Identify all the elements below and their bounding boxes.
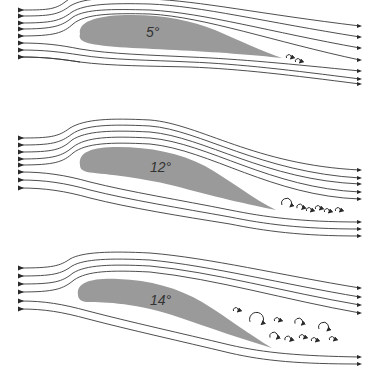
vortex-eddy-icon bbox=[286, 55, 291, 59]
inlet-arrow-icon bbox=[18, 8, 24, 13]
inlet-arrow-icon bbox=[18, 21, 24, 26]
airfoil-panel-14: 14° bbox=[18, 252, 362, 366]
vortex-eddy-icon bbox=[329, 337, 334, 341]
inlet-arrow-icon bbox=[18, 48, 24, 53]
airfoil-shape bbox=[78, 279, 272, 348]
outlet-arrow-icon bbox=[357, 220, 362, 224]
airfoil-shape bbox=[80, 147, 276, 210]
inlet-arrow-icon bbox=[18, 282, 24, 287]
angle-of-attack-label: 14° bbox=[150, 292, 172, 308]
inlet-arrow-icon bbox=[18, 266, 24, 271]
streamline bbox=[20, 50, 360, 79]
outlet-arrow-icon bbox=[357, 190, 362, 194]
inlet-arrow-icon bbox=[18, 150, 24, 155]
vortex-eddy-icon bbox=[299, 335, 304, 339]
outlet-arrow-icon bbox=[357, 77, 362, 81]
inlet-arrow-icon bbox=[18, 27, 24, 32]
panels: 5°12°14° bbox=[18, 0, 362, 366]
airfoil-panel-12: 12° bbox=[18, 119, 362, 238]
outlet-arrow-icon bbox=[357, 182, 362, 186]
vortex-eddy-icon bbox=[319, 322, 329, 331]
airfoil-shape bbox=[80, 15, 282, 58]
outlet-arrow-icon bbox=[357, 311, 362, 315]
outlet-arrow-icon bbox=[357, 234, 362, 238]
outlet-arrow-icon bbox=[357, 35, 362, 39]
outlet-arrow-icon bbox=[357, 227, 362, 231]
inlet-arrow-icon bbox=[18, 34, 24, 39]
streamline bbox=[20, 57, 80, 62]
inlet-arrow-icon bbox=[18, 136, 24, 141]
vortex-eddy-icon bbox=[295, 318, 303, 325]
angle-of-attack-label: 5° bbox=[146, 24, 160, 40]
vortex-eddy-icon bbox=[297, 204, 303, 209]
inlet-arrow-icon bbox=[18, 14, 24, 19]
outlet-arrow-icon bbox=[357, 303, 362, 307]
outlet-arrow-icon bbox=[357, 176, 362, 180]
vortex-eddy-icon bbox=[285, 336, 291, 341]
outlet-arrow-icon bbox=[357, 82, 362, 86]
inlet-arrow-icon bbox=[18, 290, 24, 295]
inlet-arrow-icon bbox=[18, 157, 24, 162]
vortex-eddy-icon bbox=[270, 332, 278, 339]
outlet-arrow-icon bbox=[357, 46, 362, 50]
vortex-eddy-icon bbox=[295, 59, 300, 63]
outlet-arrow-icon bbox=[357, 362, 362, 366]
vortex-eddy-icon bbox=[315, 206, 320, 210]
inlet-arrow-icon bbox=[18, 143, 24, 148]
inlet-arrow-icon bbox=[18, 170, 24, 175]
outlet-arrow-icon bbox=[357, 286, 362, 290]
vortex-eddy-icon bbox=[311, 338, 316, 342]
angle-of-attack-label: 12° bbox=[150, 159, 172, 175]
airfoil-streamline-diagram: 5°12°14° bbox=[0, 0, 385, 381]
outlet-arrow-icon bbox=[357, 295, 362, 299]
outlet-arrow-icon bbox=[357, 24, 362, 28]
outlet-arrow-icon bbox=[357, 69, 362, 73]
vortex-eddy-icon bbox=[250, 312, 264, 324]
airfoil-panel-5: 5° bbox=[18, 0, 362, 86]
vortex-eddy-icon bbox=[274, 318, 279, 322]
outlet-arrow-icon bbox=[357, 197, 362, 201]
inlet-arrow-icon bbox=[18, 41, 24, 46]
inlet-arrow-icon bbox=[18, 186, 24, 191]
outlet-arrow-icon bbox=[357, 58, 362, 62]
inlet-arrow-icon bbox=[18, 163, 24, 168]
outlet-arrow-icon bbox=[357, 355, 362, 359]
inlet-arrow-icon bbox=[18, 299, 24, 304]
vortex-eddy-icon bbox=[324, 209, 329, 213]
vortex-eddy-icon bbox=[335, 208, 340, 212]
outlet-arrow-icon bbox=[357, 168, 362, 172]
vortex-eddy-icon bbox=[233, 308, 238, 312]
inlet-arrow-icon bbox=[18, 55, 24, 60]
streamline bbox=[20, 188, 360, 236]
inlet-arrow-icon bbox=[18, 307, 24, 312]
vortex-eddy-icon bbox=[306, 208, 311, 212]
vortex-eddy-icon bbox=[282, 198, 292, 207]
inlet-arrow-icon bbox=[18, 274, 24, 279]
inlet-arrow-icon bbox=[18, 178, 24, 183]
